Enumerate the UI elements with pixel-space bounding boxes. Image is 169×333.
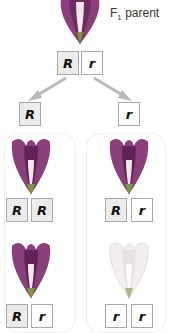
offspring-3-allele-a: R (6, 304, 28, 328)
offspring-flower-rr-het-2-icon (10, 240, 52, 300)
offspring-4-allele-b: r (131, 304, 153, 328)
offspring-3-allele-b: r (31, 304, 53, 328)
parent-allele-dominant: R (57, 51, 79, 75)
gamete-recessive: r (118, 102, 140, 126)
offspring-flower-white-icon (108, 240, 150, 300)
offspring-2-allele-a: R (105, 198, 127, 222)
offspring-1-allele-a: R (6, 198, 28, 222)
gamete-dominant: R (19, 102, 41, 126)
offspring-4-allele-a: r (105, 304, 127, 328)
parent-label: F1 parent (110, 6, 159, 22)
parent-allele-recessive: r (81, 51, 103, 75)
offspring-flower-rr-icon (10, 136, 52, 196)
offspring-flower-rr-het-icon (108, 136, 150, 196)
offspring-2-allele-b: r (131, 198, 153, 222)
offspring-1-allele-b: R (31, 198, 53, 222)
parent-flower-icon (55, 0, 105, 46)
